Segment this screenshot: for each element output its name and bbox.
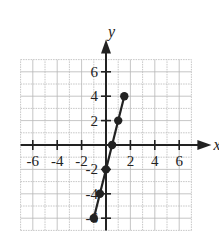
y-tick-label: -2 (86, 161, 99, 177)
data-point (96, 190, 104, 198)
data-point (102, 165, 110, 173)
coordinate-plane: -6-4-2246642-2-4-6xy (0, 0, 219, 241)
y-tick-label: 4 (91, 88, 99, 104)
y-axis-label: y (106, 23, 116, 41)
x-tick-label: 6 (175, 153, 183, 169)
data-point (90, 214, 98, 222)
x-tick-label: 4 (151, 153, 159, 169)
x-tick-label: -4 (51, 153, 64, 169)
data-point (120, 92, 128, 100)
y-axis-arrow-icon (101, 40, 111, 54)
x-axis-arrow-icon (197, 140, 211, 150)
y-tick-label: 6 (91, 64, 99, 80)
data-point (108, 141, 116, 149)
x-tick-label: -6 (27, 153, 40, 169)
data-point (114, 116, 122, 124)
x-axis-label: x (212, 136, 219, 153)
x-tick-label: 2 (127, 153, 135, 169)
y-tick-label: 2 (91, 113, 99, 129)
